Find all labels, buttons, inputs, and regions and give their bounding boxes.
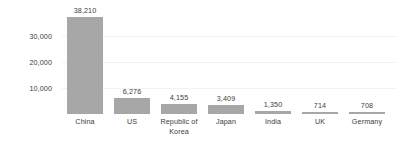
x-axis: China US Republic of Korea Japan India U… [62,117,397,151]
bar-chart: 30,000 20,000 10,000 38,210 6,276 4,155 … [0,0,403,151]
x-tick-label-us: US [109,117,155,127]
bar-india[interactable] [255,111,291,114]
bar-value-india: 1,350 [264,100,283,109]
bar-us[interactable] [114,98,150,114]
bar-japan[interactable] [208,105,244,114]
x-tick-label-japan: Japan [203,117,249,127]
x-tick-label-germany: Germany [344,117,390,127]
bar-value-uk: 714 [314,101,326,110]
x-tick-label-uk: UK [297,117,343,127]
x-tick-label-republic-of-korea: Republic of Korea [156,117,202,136]
y-axis: 30,000 20,000 10,000 [0,0,62,151]
bar-china[interactable] [67,17,103,114]
bar-value-republic-of-korea: 4,155 [170,93,189,102]
bar-republic-of-korea[interactable] [161,104,197,115]
y-tick-label-10000: 10,000 [29,84,52,93]
bar-value-china: 38,210 [74,6,97,15]
y-tick-label-20000: 20,000 [29,58,52,67]
plot-area: 38,210 6,276 4,155 3,409 1,350 714 [62,8,397,114]
y-tick-label-30000: 30,000 [29,32,52,41]
bar-uk[interactable] [302,112,338,114]
bar-germany[interactable] [349,112,385,114]
bar-value-us: 6,276 [123,87,142,96]
bar-value-germany: 708 [361,101,373,110]
bar-value-japan: 3,409 [217,94,236,103]
x-tick-label-china: China [62,117,108,127]
bars-layer: 38,210 6,276 4,155 3,409 1,350 714 [62,8,397,114]
x-tick-label-india: India [250,117,296,127]
